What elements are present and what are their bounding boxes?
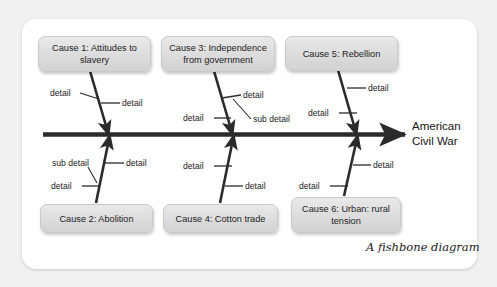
diagram-caption: A fishbone diagram: [366, 240, 480, 254]
detail-label-c1-d1: detail: [50, 88, 71, 98]
bone-line-cause-5: [338, 70, 357, 136]
detail-label-c1-d2: detail: [122, 98, 143, 108]
detail-label-c2-d2: detail: [51, 181, 72, 191]
detail-label-c6-d2: detail: [299, 181, 320, 191]
cause-label-2: Cause 2: Abolition: [59, 213, 133, 225]
effect-label-line1: American: [412, 119, 461, 134]
bone-cause-3: [214, 71, 251, 136]
effect-label: American Civil War: [412, 119, 461, 148]
cause-box-5[interactable]: Cause 5: Rebellion: [285, 36, 398, 71]
bone-cause-1: [80, 71, 120, 136]
detail-label-c5-d2: detail: [308, 108, 329, 118]
detail-tick-c3-d1: [222, 95, 241, 98]
detail-label-c6-d1: detail: [373, 160, 394, 170]
detail-label-c3-d2: detail: [183, 113, 204, 123]
sub-detail-tick-c2: [88, 167, 97, 183]
detail-label-c4-d1: detail: [183, 161, 204, 171]
effect-label-line2: Civil War: [412, 134, 461, 149]
fishbone-diagram-canvas: Cause 1: Attitudes to slavery Cause 3: I…: [0, 0, 497, 287]
bone-line-cause-3: [214, 71, 233, 136]
cause-label-3: Cause 3: Independence from government: [166, 42, 270, 66]
cause-box-6[interactable]: Cause 6: Urban: rural tension: [291, 197, 401, 233]
cause-box-3[interactable]: Cause 3: Independence from government: [161, 36, 275, 72]
detail-label-c3-sub1: sub detail: [253, 114, 290, 124]
cause-label-6: Cause 6: Urban: rural tension: [296, 203, 396, 227]
detail-label-c4-d2: detail: [245, 181, 266, 191]
bone-line-cause-4: [220, 134, 234, 203]
bone-cause-5: [338, 70, 366, 136]
detail-label-c3-d1: detail: [243, 90, 264, 100]
bone-cause-4: [214, 134, 243, 203]
detail-label-c2-d1: detail: [126, 158, 147, 168]
bone-cause-2: [82, 134, 124, 203]
cause-label-5: Cause 5: Rebellion: [303, 48, 381, 60]
cause-label-4: Cause 4: Cotton trade: [176, 213, 266, 225]
sub-detail-tick-c3: [233, 99, 251, 119]
detail-label-c2-sub1: sub detail: [52, 158, 89, 168]
cause-label-1: Cause 1: Attitudes to slavery: [43, 42, 146, 66]
cause-box-1[interactable]: Cause 1: Attitudes to slavery: [38, 36, 151, 72]
cause-box-2[interactable]: Cause 2: Abolition: [40, 204, 153, 233]
bone-line-cause-2: [96, 134, 110, 203]
cause-box-4[interactable]: Cause 4: Cotton trade: [163, 204, 278, 233]
bone-cause-6: [330, 134, 371, 196]
detail-label-c5-d1: detail: [368, 83, 389, 93]
